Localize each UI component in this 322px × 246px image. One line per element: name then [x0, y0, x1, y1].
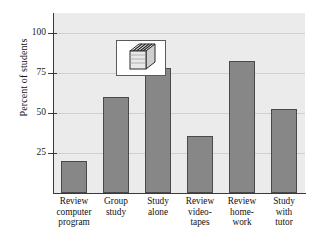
x-label-review-videotapes: Reviewvideo-tapes	[179, 196, 221, 228]
bar-group-study	[103, 97, 129, 193]
y-tick-label-50: 50	[37, 108, 47, 118]
gridline-25	[53, 153, 305, 154]
bar-study-alone	[145, 68, 171, 193]
bar-review-videotapes	[187, 136, 213, 193]
y-tick-label-100: 100	[32, 28, 46, 38]
gridline-50	[53, 113, 305, 114]
y-tick-mark-25	[48, 153, 57, 154]
y-tick-label-25-wrap: 25	[0, 148, 46, 158]
bar-chart-figure: 100 75 50 25 Percent of students Reviewc…	[0, 0, 322, 246]
y-tick-label-75: 75	[37, 68, 47, 78]
stack-of-books-icon	[117, 41, 165, 75]
bar-study-with-tutor	[271, 109, 297, 193]
y-tick-label-25: 25	[37, 148, 47, 158]
bar-review-computer-program	[61, 161, 87, 193]
y-tick-mark-50	[48, 113, 57, 114]
x-axis-line	[53, 193, 306, 194]
x-label-study-alone: Studyalone	[137, 196, 179, 217]
y-axis-line	[53, 13, 54, 194]
y-axis-title: Percent of students	[18, 8, 29, 148]
x-label-group-study: Groupstudy	[95, 196, 137, 217]
plot-area	[53, 13, 305, 193]
y-tick-mark-100	[48, 33, 57, 34]
x-label-study-with-tutor: Studywithtutor	[263, 196, 305, 228]
y-tick-mark-75	[48, 73, 57, 74]
icon-box	[116, 40, 166, 76]
gridline-100	[53, 33, 305, 34]
gridline-75	[53, 73, 305, 74]
bar-review-homework	[229, 61, 255, 193]
x-label-review-computer-program: Reviewcomputerprogram	[53, 196, 95, 228]
x-label-review-homework: Reviewhome-work	[221, 196, 263, 228]
